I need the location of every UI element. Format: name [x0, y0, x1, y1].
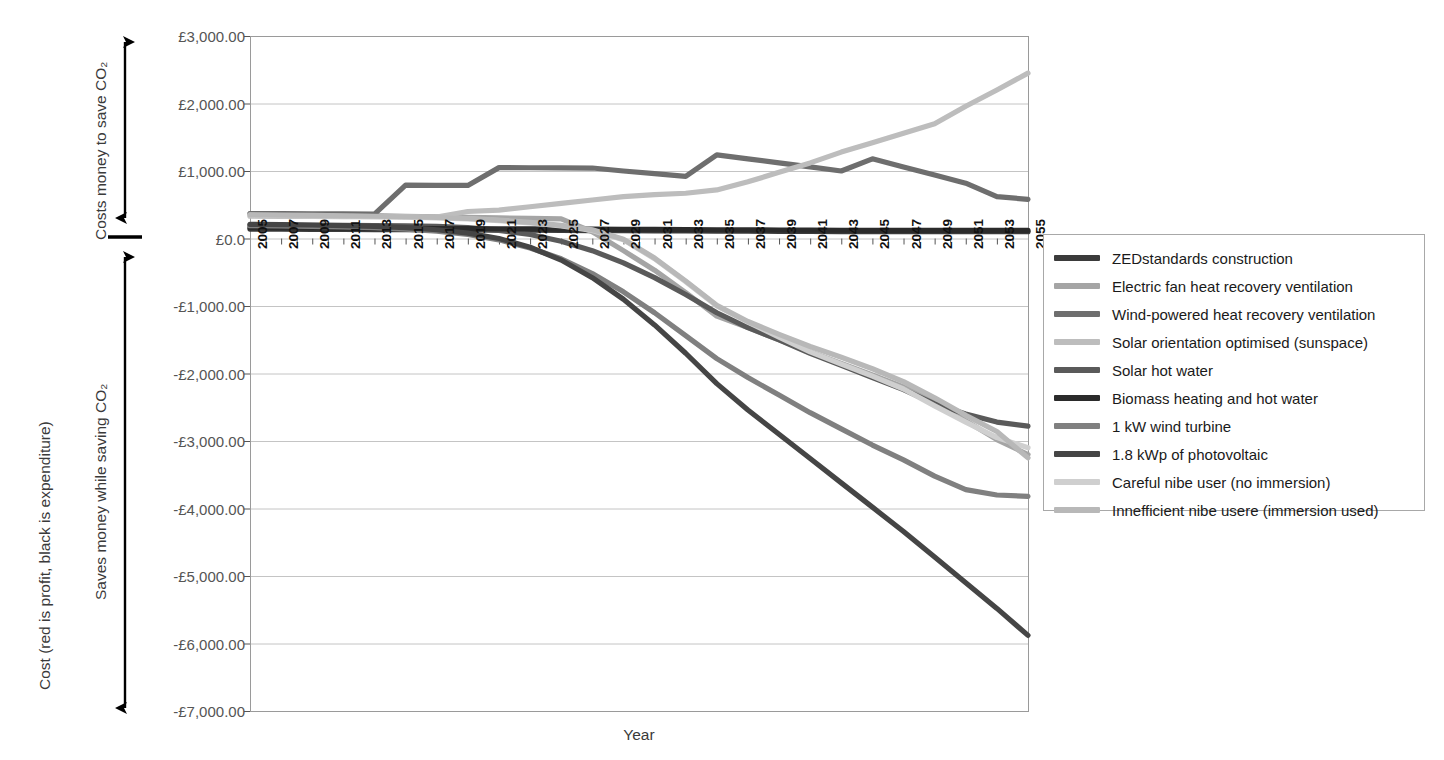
legend-item-label: Solar orientation optimised (sunspace) [1112, 335, 1368, 350]
x-tick-label: 2043 [846, 218, 861, 248]
legend-color-swatch-icon [1054, 367, 1100, 373]
x-tick-label: 2023 [535, 218, 550, 248]
legend-color-swatch-icon [1054, 451, 1100, 457]
x-tick-label: 2005 [255, 218, 270, 248]
x-tick-label: 2019 [473, 218, 488, 248]
chart-container: Cost (red is profit, black is expenditur… [0, 0, 1444, 760]
x-tick-label: 2041 [815, 218, 830, 248]
x-tick-label: 2009 [317, 218, 332, 248]
x-tick-label: 2013 [379, 218, 394, 248]
x-tick-label: 2047 [909, 218, 924, 248]
legend: ZEDstandards constructionElectric fan he… [1043, 234, 1425, 511]
legend-item-label: Biomass heating and hot water [1112, 391, 1318, 406]
x-axis-title: Year [0, 726, 1028, 744]
x-tick-label: 2037 [753, 218, 768, 248]
legend-item-label: 1.8 kWp of photovoltaic [1112, 447, 1268, 462]
legend-item-label: Innefficient nibe usere (immersion used) [1112, 503, 1379, 518]
x-tick-label: 2033 [691, 218, 706, 248]
legend-item[interactable]: Innefficient nibe usere (immersion used) [1054, 496, 1416, 524]
x-axis-title-text: Year [623, 726, 654, 744]
legend-color-swatch-icon [1054, 423, 1100, 429]
x-tick-label: 2021 [504, 218, 519, 248]
x-tick-label: 2011 [348, 219, 363, 248]
legend-color-swatch-icon [1054, 255, 1100, 261]
legend-item[interactable]: Electric fan heat recovery ventilation [1054, 272, 1416, 300]
x-tick-label: 2007 [286, 218, 301, 248]
legend-item[interactable]: Solar orientation optimised (sunspace) [1054, 328, 1416, 356]
x-tick-label: 2051 [971, 218, 986, 248]
legend-item-label: Solar hot water [1112, 363, 1213, 378]
legend-item-label: ZEDstandards construction [1112, 251, 1293, 266]
x-tick-label: 2029 [628, 218, 643, 248]
legend-color-swatch-icon [1054, 395, 1100, 401]
x-tick-label: 2025 [566, 218, 581, 248]
legend-item[interactable]: Solar hot water [1054, 356, 1416, 384]
legend-item-label: Careful nibe user (no immersion) [1112, 475, 1330, 490]
legend-color-swatch-icon [1054, 283, 1100, 289]
legend-item[interactable]: 1.8 kWp of photovoltaic [1054, 440, 1416, 468]
x-tick-label: 2017 [442, 218, 457, 248]
legend-item[interactable]: Wind-powered heat recovery ventilation [1054, 300, 1416, 328]
legend-item[interactable]: ZEDstandards construction [1054, 244, 1416, 272]
x-tick-label: 2045 [877, 218, 892, 248]
legend-item[interactable]: Careful nibe user (no immersion) [1054, 468, 1416, 496]
legend-item[interactable]: 1 kW wind turbine [1054, 412, 1416, 440]
x-tick-label: 2035 [722, 218, 737, 248]
legend-color-swatch-icon [1054, 311, 1100, 317]
legend-color-swatch-icon [1054, 339, 1100, 345]
x-tick-label: 2031 [660, 218, 675, 248]
x-tick-label: 2049 [940, 218, 955, 248]
x-tick-label: 2053 [1002, 218, 1017, 248]
x-tick-label: 2015 [411, 218, 426, 248]
legend-item-label: Wind-powered heat recovery ventilation [1112, 307, 1375, 322]
x-tick-label: 2039 [784, 218, 799, 248]
x-tick-label: 2027 [597, 218, 612, 248]
legend-item-label: 1 kW wind turbine [1112, 419, 1231, 434]
legend-item-label: Electric fan heat recovery ventilation [1112, 279, 1353, 294]
legend-item[interactable]: Biomass heating and hot water [1054, 384, 1416, 412]
legend-color-swatch-icon [1054, 479, 1100, 485]
legend-color-swatch-icon [1054, 507, 1100, 513]
